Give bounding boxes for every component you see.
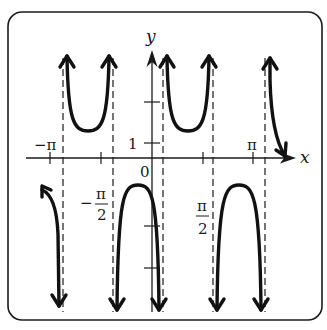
minus-sign: − — [80, 194, 93, 212]
left-partial-branch — [42, 190, 59, 306]
pi-numerator: π — [96, 185, 106, 203]
x-tick-label-neg-pi: −π — [34, 136, 57, 154]
pi-numerator: π — [197, 197, 207, 215]
downward-branch — [117, 185, 159, 310]
sec-graph: y x 1 0 −π π − π 2 π 2 — [0, 0, 327, 330]
right-partial-branch — [270, 58, 285, 156]
x-tick-label-pi: π — [247, 136, 257, 154]
x-tick-label-pi-half: π 2 — [196, 197, 209, 238]
denominator-two: 2 — [97, 206, 107, 224]
downward-branch — [217, 185, 261, 310]
y-axis-label: y — [145, 26, 156, 46]
origin-label: 0 — [140, 163, 150, 181]
denominator-two: 2 — [198, 220, 208, 238]
x-axis-label: x — [300, 147, 310, 167]
curve-branches — [42, 56, 286, 310]
x-tick-label-neg-pi-half: − π 2 — [80, 185, 108, 224]
y-tick-label-1: 1 — [128, 135, 138, 153]
